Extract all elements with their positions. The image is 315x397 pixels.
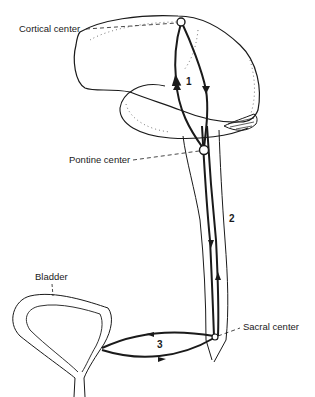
loop-3-number: 3 xyxy=(157,339,163,350)
loop-1-number: 1 xyxy=(186,76,192,87)
loop-2-number: 2 xyxy=(229,213,235,224)
cerebrum-outline xyxy=(74,16,259,123)
brain-stipple xyxy=(90,22,255,132)
micturition-diagram xyxy=(0,0,315,397)
bladder-outer xyxy=(13,294,112,378)
sacral-center-label: Sacral center xyxy=(243,321,299,332)
loop-2-arrow-down xyxy=(208,240,214,248)
loop-2-descending xyxy=(202,126,214,336)
cortical-center-node xyxy=(177,18,185,26)
bladder-inner xyxy=(26,305,102,372)
loop-2-arrow-up xyxy=(215,272,221,280)
sacral-center-leader xyxy=(218,328,240,336)
spinal-cord-left-edge xyxy=(183,136,212,360)
loop-3-arrow-right xyxy=(158,357,166,362)
pontine-center-leader xyxy=(133,151,199,160)
bladder-label: Bladder xyxy=(35,271,68,282)
pontine-center-node xyxy=(200,146,209,155)
urethra xyxy=(74,378,85,397)
pontine-center-label: Pontine center xyxy=(69,154,130,165)
sacral-center-node xyxy=(212,334,218,340)
loop-1-arrow-up xyxy=(173,82,181,90)
cortical-center-label: Cortical center xyxy=(19,23,80,34)
loop-1-arrow-down xyxy=(202,86,210,94)
